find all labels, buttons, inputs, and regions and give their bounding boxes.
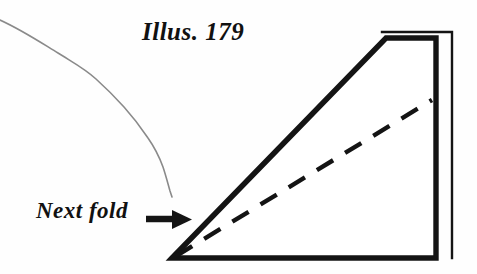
illustration-caption: Illus. 179 xyxy=(142,18,244,46)
hand-drawn-guide-line xyxy=(0,20,172,197)
origami-instruction-figure: Illus. 179 Next fold xyxy=(0,0,477,274)
next-fold-arrow-icon xyxy=(146,210,192,229)
next-fold-annotation: Next fold xyxy=(36,198,128,224)
folded-paper-fill xyxy=(172,38,436,258)
